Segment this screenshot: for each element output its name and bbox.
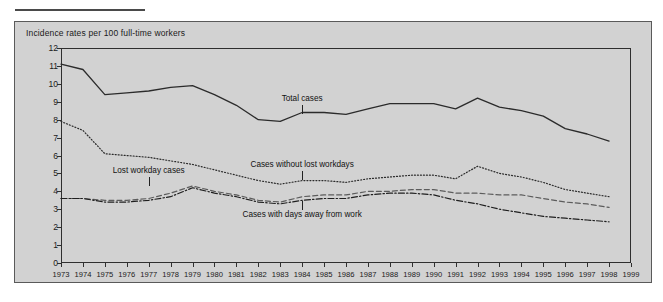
header-rule bbox=[15, 9, 145, 11]
series-annotation: Cases with days away from work bbox=[243, 210, 362, 219]
annotation-leader bbox=[302, 105, 303, 114]
series-annotation: Lost workday cases bbox=[113, 166, 185, 175]
series-line bbox=[61, 121, 609, 196]
series-line bbox=[61, 64, 609, 141]
chart-container: Incidence rates per 100 full-time worker… bbox=[14, 21, 652, 283]
figure-root: Incidence rates per 100 full-time worker… bbox=[0, 0, 663, 302]
annotation-leader bbox=[302, 171, 303, 180]
series-annotation: Cases without lost workdays bbox=[250, 160, 353, 169]
series-annotation: Total cases bbox=[282, 94, 323, 103]
annotation-leader bbox=[149, 177, 150, 186]
series-canvas bbox=[15, 22, 653, 284]
series-line bbox=[61, 186, 609, 208]
annotation-leader bbox=[302, 201, 303, 210]
